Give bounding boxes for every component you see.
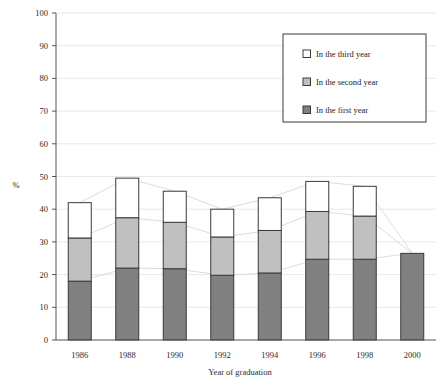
- chart-canvas: 0102030405060708090100 19861988199019921…: [0, 0, 448, 392]
- bar-segment-second-year: [163, 222, 186, 268]
- bar-segment-first-year: [353, 259, 376, 340]
- bar-stack: [211, 209, 234, 340]
- legend-label: In the first year: [316, 105, 368, 115]
- bar-segment-first-year: [211, 275, 234, 340]
- bar-segment-third-year: [116, 178, 139, 218]
- y-tick-label: 70: [40, 106, 49, 116]
- legend-label: In the second year: [316, 77, 378, 87]
- x-tick-label: 1992: [214, 350, 231, 360]
- light-gray-square-icon: [303, 78, 311, 86]
- y-tick-label: 60: [40, 139, 49, 149]
- y-tick-label: 100: [35, 8, 48, 18]
- x-tick-label: 1990: [166, 350, 183, 360]
- bar-segment-first-year: [116, 268, 139, 340]
- bar-segment-second-year: [353, 216, 376, 259]
- bar-stack: [116, 178, 139, 340]
- bar-stack: [258, 198, 281, 340]
- bar-segment-third-year: [68, 203, 91, 238]
- x-tick-label: 1994: [261, 350, 279, 360]
- y-tick-label: 10: [40, 302, 49, 312]
- bar-segment-first-year: [401, 253, 424, 340]
- bar-segment-first-year: [68, 281, 91, 340]
- bar-stack: [68, 203, 91, 340]
- legend-label: In the third year: [316, 49, 371, 59]
- bar-segment-second-year: [306, 211, 329, 259]
- bar-segment-third-year: [353, 186, 376, 216]
- y-tick-label: 30: [40, 237, 49, 247]
- bar-segment-third-year: [306, 181, 329, 211]
- y-tick-label: 20: [40, 270, 49, 280]
- dark-gray-square-icon: [303, 106, 311, 114]
- x-axis-label: Year of graduation: [208, 367, 272, 377]
- y-tick-label: 90: [40, 41, 49, 51]
- x-tick-label: 1988: [119, 350, 136, 360]
- white-square-icon: [303, 50, 311, 58]
- x-tick-label: 1986: [71, 350, 88, 360]
- bar-segment-second-year: [116, 218, 139, 268]
- y-tick-label: 80: [40, 73, 49, 83]
- stacked-bar-chart: 0102030405060708090100 19861988199019921…: [0, 0, 448, 392]
- bar-segment-second-year: [211, 237, 234, 275]
- y-tick-label: 50: [40, 172, 49, 182]
- bar-segment-third-year: [211, 209, 234, 237]
- x-tick-label: 1998: [356, 350, 373, 360]
- x-tick-label: 2000: [404, 350, 421, 360]
- bar-stack: [401, 253, 424, 340]
- bar-stack: [353, 186, 376, 340]
- legend: In the third yearIn the second yearIn th…: [283, 34, 426, 122]
- bar-segment-second-year: [68, 238, 91, 281]
- bar-segment-first-year: [306, 259, 329, 340]
- y-tick-label: 40: [40, 204, 49, 214]
- bar-segment-third-year: [258, 198, 281, 231]
- bar-segment-second-year: [258, 230, 281, 273]
- y-tick-label: 0: [44, 335, 48, 345]
- y-axis-label: %: [12, 180, 19, 190]
- bar-segment-first-year: [258, 273, 281, 340]
- bar-segment-third-year: [163, 191, 186, 222]
- bar-stack: [306, 181, 329, 340]
- bar-stack: [163, 191, 186, 340]
- x-tick-label: 1996: [309, 350, 326, 360]
- bar-segment-first-year: [163, 269, 186, 340]
